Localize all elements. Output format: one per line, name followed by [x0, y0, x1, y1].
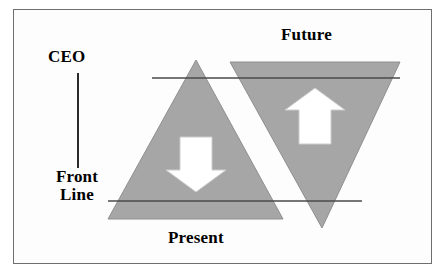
- label-ceo: CEO: [48, 48, 85, 65]
- label-future: Future: [281, 26, 332, 43]
- label-present: Present: [168, 229, 224, 246]
- label-front-line: Front Line: [40, 168, 114, 204]
- label-front-line-word2: Line: [40, 186, 114, 204]
- label-front-line-word1: Front: [40, 168, 114, 186]
- diagram-canvas: CEO Front Line Future Present: [0, 0, 444, 274]
